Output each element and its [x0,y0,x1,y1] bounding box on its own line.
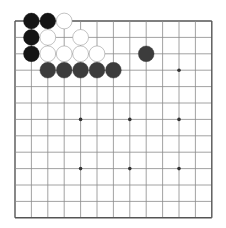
black-stone[interactable] [24,13,40,29]
white-stone[interactable] [56,13,72,29]
white-stone[interactable] [73,46,89,62]
star-point [177,167,181,171]
black-stone[interactable] [24,30,40,46]
black-stone[interactable] [89,62,105,78]
white-stone[interactable] [40,46,56,62]
star-point [79,167,83,171]
black-stone[interactable] [40,13,56,29]
black-stone[interactable] [73,62,89,78]
go-board[interactable] [0,0,226,228]
white-stone[interactable] [56,46,72,62]
white-stone[interactable] [40,30,56,46]
star-point [128,167,132,171]
star-point [177,68,181,72]
white-stone[interactable] [89,46,105,62]
star-point [128,118,132,122]
black-stone[interactable] [56,62,72,78]
black-stone[interactable] [24,46,40,62]
star-point [79,118,83,122]
star-point [177,118,181,122]
black-stone[interactable] [40,62,56,78]
black-stone[interactable] [138,46,154,62]
white-stone[interactable] [73,30,89,46]
black-stone[interactable] [106,62,122,78]
